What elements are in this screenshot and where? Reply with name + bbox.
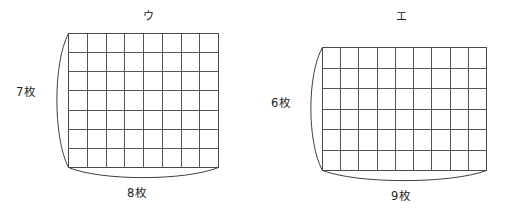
figure-e-bottom-curve: [323, 171, 487, 181]
figure-e-left-curve: [311, 48, 323, 171]
figure-e-height-label: 6枚: [271, 96, 290, 110]
figure-e-vector: [0, 0, 509, 215]
figure-e-width-label: 9枚: [391, 189, 410, 203]
figure-canvas: ウ 7枚 8枚 エ 6枚 9枚: [0, 0, 509, 215]
figure-e-grid: [0, 0, 509, 215]
